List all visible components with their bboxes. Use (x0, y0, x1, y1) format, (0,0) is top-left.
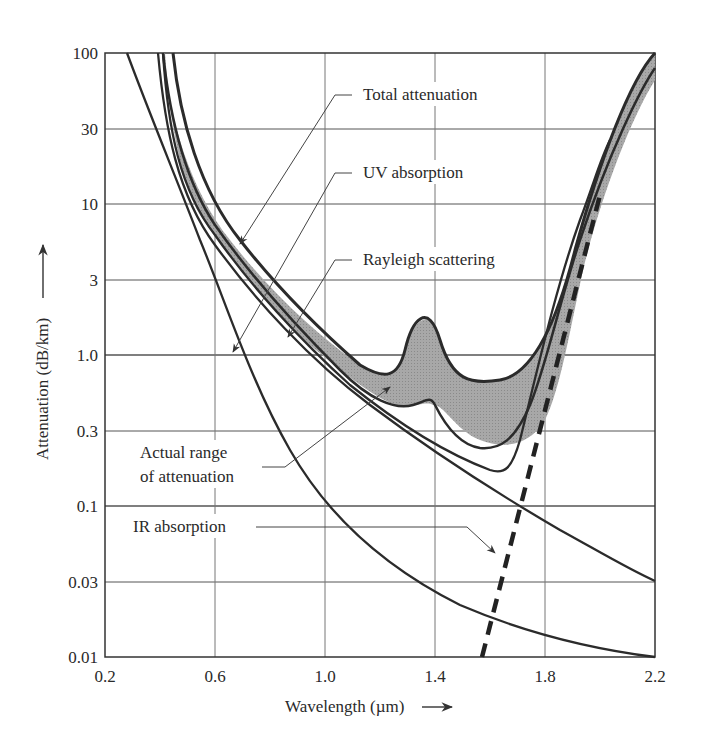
label-actual-range-2: of attenuation (140, 467, 234, 486)
label-total-attenuation: Total attenuation (363, 85, 478, 104)
x-axis-label: Wavelength (µm) (285, 697, 404, 716)
uv-absorption-inner-curve (158, 53, 655, 581)
y-axis-ticks: 100 30 10 3 1.0 0.3 0.1 0.03 0.01 (68, 44, 98, 667)
svg-text:1.0: 1.0 (77, 346, 98, 365)
svg-text:0.01: 0.01 (68, 648, 98, 667)
svg-text:30: 30 (81, 120, 98, 139)
annotations: Total attenuation UV absorption Rayleigh… (128, 82, 533, 538)
svg-text:0.3: 0.3 (77, 422, 98, 441)
attenuation-chart: Total attenuation UV absorption Rayleigh… (0, 0, 701, 745)
x-axis-ticks: 0.2 0.6 1.0 1.4 1.8 2.2 (94, 667, 665, 686)
svg-text:10: 10 (81, 195, 98, 214)
svg-text:100: 100 (73, 44, 99, 63)
svg-text:0.03: 0.03 (68, 573, 98, 592)
label-uv-absorption: UV absorption (363, 163, 464, 182)
label-actual-range-1: Actual range (140, 443, 227, 462)
svg-text:2.2: 2.2 (644, 667, 665, 686)
grid (105, 53, 655, 657)
svg-text:3: 3 (90, 271, 99, 290)
svg-text:0.1: 0.1 (77, 497, 98, 516)
svg-text:1.4: 1.4 (424, 667, 446, 686)
svg-text:1.0: 1.0 (314, 667, 335, 686)
label-ir-absorption: IR absorption (133, 517, 227, 536)
y-axis-label: Attenuation (dB/km) (33, 318, 52, 460)
svg-text:0.2: 0.2 (94, 667, 115, 686)
label-rayleigh-scattering: Rayleigh scattering (363, 250, 495, 269)
svg-text:0.6: 0.6 (204, 667, 225, 686)
svg-text:1.8: 1.8 (534, 667, 555, 686)
